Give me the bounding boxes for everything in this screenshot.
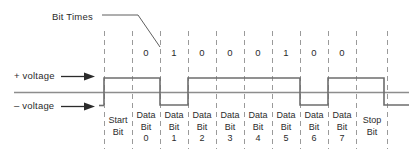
cell-line-2: Bit <box>188 122 216 134</box>
cell-line-1: Data <box>328 110 356 122</box>
cell-line-1: Data <box>216 110 244 122</box>
bit-value-1: 1 <box>160 47 188 58</box>
cell-line-3: 3 <box>216 133 244 145</box>
negative-voltage-arrow <box>61 103 95 111</box>
cell-line-2: Bit <box>160 122 188 134</box>
cell-line-3: 6 <box>300 133 328 145</box>
cell-line-1: Stop <box>357 115 387 127</box>
cell-line-2: Bit <box>244 122 272 134</box>
cell-line-3: 1 <box>160 133 188 145</box>
bit-times-label: Bit Times <box>52 11 93 22</box>
negative-voltage-label: – voltage <box>14 100 54 111</box>
positive-voltage-label: + voltage <box>14 70 55 81</box>
bit-value-5: 1 <box>272 47 300 58</box>
serial-waveform <box>104 78 409 105</box>
cell-label-data-bit-2: Data Bit 2 <box>188 110 216 145</box>
cell-line-1: Data <box>300 110 328 122</box>
cell-line-2: Bit <box>357 127 387 139</box>
cell-label-start-bit: Start Bit <box>104 115 132 138</box>
bit-value-6: 0 <box>300 47 328 58</box>
cell-label-stop-bit: Stop Bit <box>357 115 387 138</box>
cell-line-1: Data <box>272 110 300 122</box>
cell-line-1: Data <box>244 110 272 122</box>
cell-line-2: Bit <box>300 122 328 134</box>
cell-line-1: Data <box>160 110 188 122</box>
cell-line-1: Data <box>188 110 216 122</box>
cell-line-2: Bit <box>272 122 300 134</box>
cell-line-2: Bit <box>216 122 244 134</box>
cell-line-3: 7 <box>328 133 356 145</box>
bit-value-2: 0 <box>188 47 216 58</box>
bit-times-leader-line <box>102 15 160 47</box>
bit-value-3: 0 <box>216 47 244 58</box>
cell-label-data-bit-7: Data Bit 7 <box>328 110 356 145</box>
cell-line-2: Bit <box>328 122 356 134</box>
cell-label-data-bit-3: Data Bit 3 <box>216 110 244 145</box>
cell-line-2: Bit <box>104 127 132 139</box>
cell-label-data-bit-0: Data Bit 0 <box>132 110 160 145</box>
cell-line-2: Bit <box>132 122 160 134</box>
positive-voltage-arrow <box>61 73 95 81</box>
bit-value-0: 0 <box>132 47 160 58</box>
serial-timing-diagram: Bit Times + voltage – voltage 0 1 0 0 0 … <box>0 0 415 153</box>
cell-label-data-bit-6: Data Bit 6 <box>300 110 328 145</box>
cell-line-1: Start <box>104 115 132 127</box>
cell-line-3: 4 <box>244 133 272 145</box>
cell-label-data-bit-4: Data Bit 4 <box>244 110 272 145</box>
cell-label-data-bit-1: Data Bit 1 <box>160 110 188 145</box>
cell-label-data-bit-5: Data Bit 5 <box>272 110 300 145</box>
cell-line-3: 2 <box>188 133 216 145</box>
cell-line-3: 0 <box>132 133 160 145</box>
bit-value-7: 0 <box>328 47 356 58</box>
cell-line-1: Data <box>132 110 160 122</box>
bit-value-4: 0 <box>244 47 272 58</box>
cell-line-3: 5 <box>272 133 300 145</box>
